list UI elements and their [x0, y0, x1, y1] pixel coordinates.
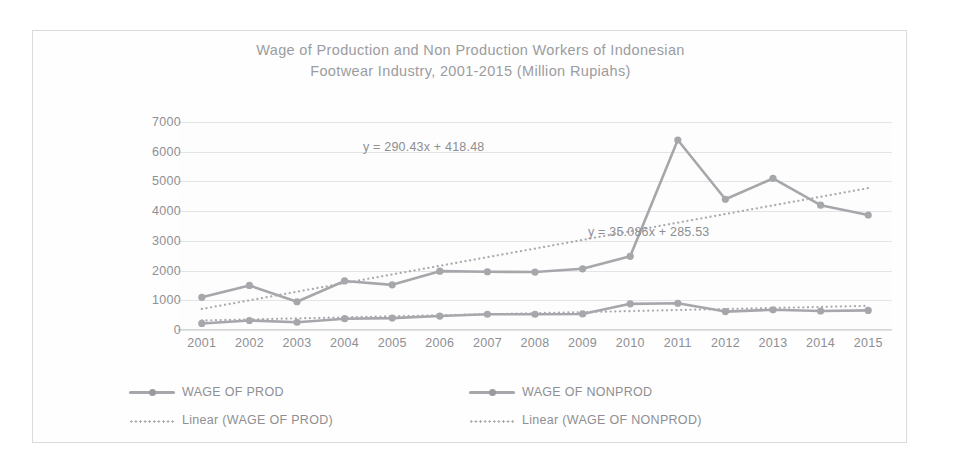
x-axis-tick-label: 2006 — [425, 336, 454, 350]
series-point — [627, 300, 634, 307]
series-point — [865, 211, 872, 218]
legend-item-wage-of-nonprod: WAGE OF NONPROD — [469, 385, 652, 399]
x-axis-tick-label: 2001 — [187, 336, 216, 350]
series-point — [436, 268, 443, 275]
plot-area — [178, 122, 892, 330]
chart-title: Wage of Production and Non Production Wo… — [33, 40, 908, 82]
series-point — [531, 311, 538, 318]
legend-label: WAGE OF NONPROD — [522, 385, 652, 399]
series-point — [341, 315, 348, 322]
x-axis-tick-label: 2009 — [568, 336, 597, 350]
x-axis-tick-label: 2005 — [378, 336, 407, 350]
x-axis-tick-label: 2012 — [711, 336, 740, 350]
x-axis-tick-label: 2008 — [520, 336, 549, 350]
x-axis-tick-label: 2011 — [664, 336, 692, 350]
series-point — [293, 298, 300, 305]
series-point — [579, 265, 586, 272]
x-axis-tick-label: 2002 — [235, 336, 264, 350]
series-point — [769, 175, 776, 182]
trendline — [202, 306, 868, 321]
series-point — [484, 268, 491, 275]
solid-line-marker-icon — [129, 387, 175, 397]
screenshot-root: Wage of Production and Non Production Wo… — [0, 0, 960, 472]
y-axis-tick-label: 4000 — [111, 204, 181, 218]
y-axis-tick-label: 5000 — [111, 174, 181, 188]
x-axis-tick-label: 2004 — [330, 336, 359, 350]
y-axis-tick-label: 3000 — [111, 234, 181, 248]
x-axis-tick-label: 2007 — [473, 336, 502, 350]
series-layer — [178, 122, 892, 330]
x-axis-tick-label: 2010 — [616, 336, 645, 350]
series-point — [246, 282, 253, 289]
x-axis-tick-label: 2013 — [758, 336, 787, 350]
dotted-line-marker-icon — [129, 415, 175, 425]
trendline-equation-prod: y = 290.43x + 418.48 — [363, 140, 484, 154]
series-point — [198, 294, 205, 301]
gridline — [178, 330, 892, 331]
chart-legend: WAGE OF PROD WAGE OF NONPROD Linear (WAG… — [129, 381, 829, 437]
y-axis-tick-label: 7000 — [111, 115, 181, 129]
trendline-equation-nonprod: y = 35.086x + 285.53 — [588, 225, 709, 239]
series-point — [389, 281, 396, 288]
y-axis-tick-label: 0 — [111, 323, 181, 337]
legend-item-wage-of-prod: WAGE OF PROD — [129, 385, 284, 399]
series-point — [246, 317, 253, 324]
trendline — [202, 188, 868, 309]
chart-title-line-1: Wage of Production and Non Production Wo… — [256, 42, 685, 58]
series-point — [293, 319, 300, 326]
chart-title-line-2: Footwear Industry, 2001-2015 (Million Ru… — [310, 63, 630, 79]
series-point — [865, 307, 872, 314]
x-axis-tick-label: 2003 — [282, 336, 311, 350]
chart-frame: Wage of Production and Non Production Wo… — [32, 30, 907, 443]
series-point — [722, 196, 729, 203]
x-axis-tick-labels: 2001200220032004200520062007200820092010… — [178, 336, 892, 356]
y-axis-tick-label: 1000 — [111, 293, 181, 307]
legend-label: Linear (WAGE OF NONPROD) — [522, 413, 702, 427]
series-point — [674, 300, 681, 307]
series-point — [674, 136, 681, 143]
solid-line-marker-icon — [469, 387, 515, 397]
series-point — [627, 253, 634, 260]
series-point — [817, 202, 824, 209]
legend-label: WAGE OF PROD — [182, 385, 284, 399]
legend-item-linear-wage-of-nonprod: Linear (WAGE OF NONPROD) — [469, 413, 702, 427]
series-point — [531, 268, 538, 275]
legend-item-linear-wage-of-prod: Linear (WAGE OF PROD) — [129, 413, 333, 427]
series-point — [817, 307, 824, 314]
legend-label: Linear (WAGE OF PROD) — [182, 413, 333, 427]
dotted-line-marker-icon — [469, 415, 515, 425]
x-axis-tick-label: 2014 — [806, 336, 835, 350]
y-axis-tick-label: 6000 — [111, 145, 181, 159]
x-axis-tick-label: 2015 — [854, 336, 883, 350]
series-line — [202, 140, 868, 302]
y-axis-tick-label: 2000 — [111, 264, 181, 278]
